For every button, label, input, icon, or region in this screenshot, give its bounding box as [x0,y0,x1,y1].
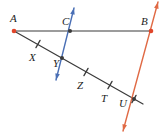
red-line-arrow-bottom [122,124,126,131]
red-line-arrow-top [154,2,158,9]
point-dot-y [60,56,64,60]
point-label-y: Y [53,58,59,69]
point-dot-b [149,29,154,34]
point-dot-c [68,29,72,33]
point-label-b: B [141,16,148,27]
point-label-z: Z [77,80,83,91]
blue-line-arrow-bottom [55,73,59,80]
point-label-u: U [119,98,127,109]
point-label-a: A [10,13,17,24]
point-label-c: C [62,16,69,27]
geometry-canvas [0,0,163,138]
geometry-diagram: ACBXYZTU [0,0,163,138]
point-label-x: X [29,52,36,63]
point-dot-u [132,97,136,101]
point-dot-a [12,29,17,34]
transversal-au [14,31,143,104]
blue-line-arrow-top [70,8,74,15]
point-label-t: T [101,93,107,104]
tick-mark-group [36,40,136,102]
